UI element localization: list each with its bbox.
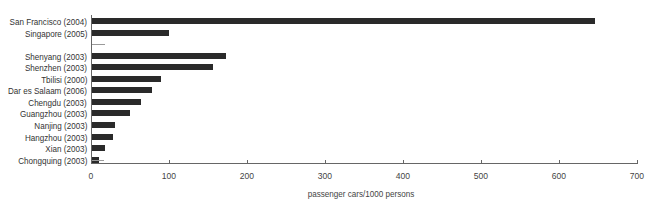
x-axis-line bbox=[91, 163, 638, 164]
bar bbox=[92, 122, 115, 128]
x-tick bbox=[559, 160, 560, 164]
bar bbox=[92, 110, 130, 116]
category-label: Guangzhou (2003) bbox=[20, 108, 87, 119]
category-label: Dar es Salaam (2006) bbox=[8, 85, 87, 96]
x-tick-label: 200 bbox=[240, 170, 254, 181]
x-tick-label: 0 bbox=[89, 170, 94, 181]
category-label: Singapore (2005) bbox=[25, 28, 87, 39]
x-tick bbox=[247, 160, 248, 164]
category-label: Shenyang (2003) bbox=[25, 51, 87, 62]
reference-mark bbox=[92, 44, 105, 45]
category-label: Chengdu (2003) bbox=[29, 97, 87, 108]
x-tick-label: 400 bbox=[396, 170, 410, 181]
x-tick-label: 700 bbox=[630, 170, 644, 181]
x-tick-label: 300 bbox=[318, 170, 332, 181]
reference-mark bbox=[92, 160, 104, 161]
bar bbox=[92, 87, 152, 93]
x-tick bbox=[325, 160, 326, 164]
bar bbox=[92, 134, 113, 140]
bar bbox=[92, 18, 595, 24]
category-label: San Francisco (2004) bbox=[10, 16, 87, 27]
category-label: Shenzhen (2003) bbox=[25, 62, 87, 73]
bar bbox=[92, 53, 226, 59]
x-tick bbox=[637, 160, 638, 164]
category-label: Xian (2003) bbox=[45, 143, 87, 154]
bar bbox=[92, 76, 161, 82]
bar bbox=[92, 30, 169, 36]
x-tick-label: 500 bbox=[474, 170, 488, 181]
x-tick-label: 100 bbox=[162, 170, 176, 181]
x-axis-title: passenger cars/1000 persons bbox=[308, 189, 415, 199]
category-label: Chongquing (2003) bbox=[18, 155, 87, 166]
x-tick bbox=[169, 160, 170, 164]
bar bbox=[92, 64, 213, 70]
x-tick bbox=[403, 160, 404, 164]
category-label: Nanjing (2003) bbox=[34, 120, 87, 131]
category-label: Tbilisi (2000) bbox=[41, 74, 87, 85]
x-tick bbox=[91, 160, 92, 164]
bar bbox=[92, 99, 141, 105]
bar bbox=[92, 145, 105, 151]
x-tick-label: 600 bbox=[552, 170, 566, 181]
x-tick bbox=[481, 160, 482, 164]
bar-chart: San Francisco (2004)Singapore (2005)Shen… bbox=[0, 0, 661, 210]
category-label: Hangzhou (2003) bbox=[25, 132, 87, 143]
